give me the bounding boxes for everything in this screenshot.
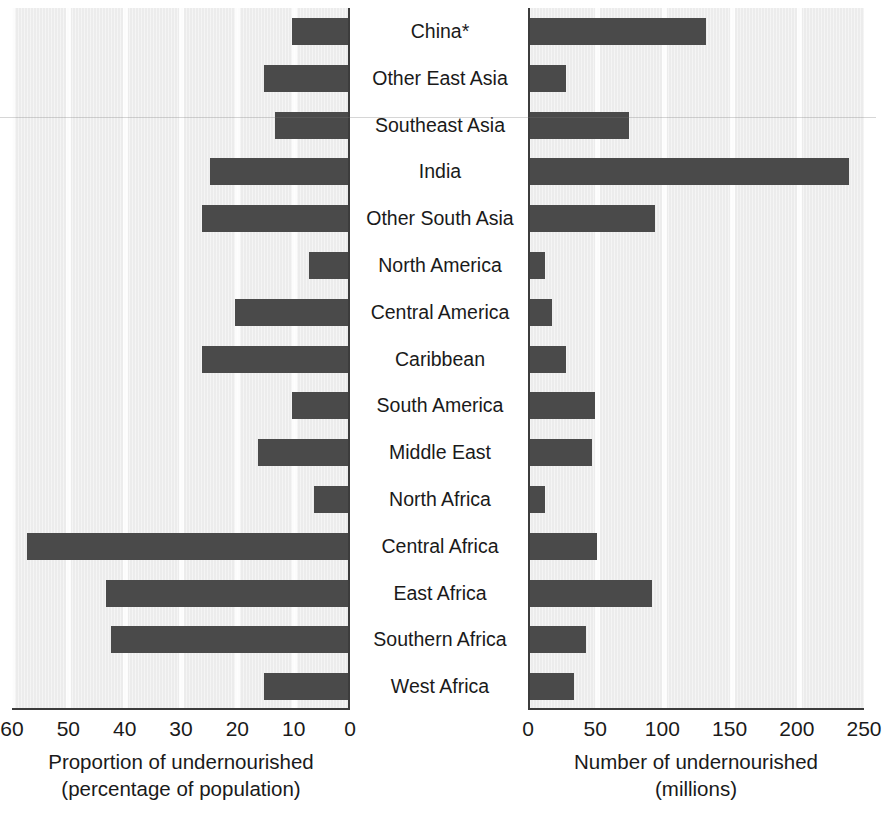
category-label: Other South Asia — [352, 205, 528, 232]
bar — [530, 252, 545, 279]
x-axis-title-right-line2: (millions) — [528, 775, 864, 802]
bar — [530, 299, 552, 326]
bar — [258, 439, 348, 466]
bar — [292, 18, 348, 45]
x-axis-tick-label: 250 — [846, 716, 881, 742]
gridline — [864, 8, 869, 708]
x-axis-tick-label: 0 — [522, 716, 534, 742]
bar — [106, 580, 348, 607]
category-label: North America — [352, 252, 528, 279]
x-axis-title-left-line2: (percentage of population) — [12, 775, 350, 802]
category-label: Caribbean — [352, 346, 528, 373]
bar-series-proportion — [12, 8, 348, 708]
bar — [275, 112, 348, 139]
x-axis-title-right: Number of undernourished (millions) — [528, 748, 864, 802]
bar — [27, 533, 348, 560]
category-label: Southeast Asia — [352, 112, 528, 139]
bar — [530, 673, 574, 700]
x-axis-tick-label: 30 — [169, 716, 192, 742]
bar — [530, 65, 566, 92]
plot-panel-proportion — [12, 8, 350, 710]
category-label: East Africa — [352, 580, 528, 607]
bar — [530, 346, 566, 373]
x-axis-tick-label: 0 — [344, 716, 356, 742]
x-axis-tick-label: 20 — [226, 716, 249, 742]
bar — [530, 392, 595, 419]
x-axis-tick-label: 200 — [779, 716, 814, 742]
x-axis-tick-label: 10 — [282, 716, 305, 742]
bar — [530, 486, 545, 513]
bar — [530, 158, 849, 185]
x-axis-tick-label: 100 — [645, 716, 680, 742]
category-label: Middle East — [352, 439, 528, 466]
category-label: North Africa — [352, 486, 528, 513]
bar — [530, 580, 652, 607]
bar — [202, 346, 348, 373]
bar — [530, 626, 586, 653]
category-axis-labels: China*Other East AsiaSoutheast AsiaIndia… — [352, 8, 528, 710]
bar — [292, 392, 348, 419]
bar — [202, 205, 348, 232]
bar — [530, 205, 655, 232]
bar — [210, 158, 348, 185]
bar — [235, 299, 348, 326]
x-axis-tick-label: 40 — [113, 716, 136, 742]
bar — [530, 533, 597, 560]
bar — [309, 252, 348, 279]
bar — [264, 673, 349, 700]
x-axis-title-left: Proportion of undernourished (percentage… — [12, 748, 350, 802]
category-label: India — [352, 158, 528, 185]
category-label: Central America — [352, 299, 528, 326]
plot-panel-number — [528, 8, 864, 710]
category-label: Southern Africa — [352, 626, 528, 653]
x-axis-title-right-line1: Number of undernourished — [528, 748, 864, 775]
x-axis-title-left-line1: Proportion of undernourished — [12, 748, 350, 775]
category-label: Central Africa — [352, 533, 528, 560]
x-axis-tick-label: 60 — [0, 716, 23, 742]
x-axis-tick-label: 50 — [57, 716, 80, 742]
category-label: West Africa — [352, 673, 528, 700]
category-label: Other East Asia — [352, 65, 528, 92]
bar — [111, 626, 348, 653]
bar — [530, 18, 706, 45]
x-axis-tick-label: 50 — [584, 716, 607, 742]
bar — [264, 65, 349, 92]
bar — [314, 486, 348, 513]
bar — [530, 112, 629, 139]
category-label: South America — [352, 392, 528, 419]
x-axis-tick-label: 150 — [712, 716, 747, 742]
category-label: China* — [352, 18, 528, 45]
bar — [530, 439, 592, 466]
bar-series-number — [530, 8, 864, 708]
